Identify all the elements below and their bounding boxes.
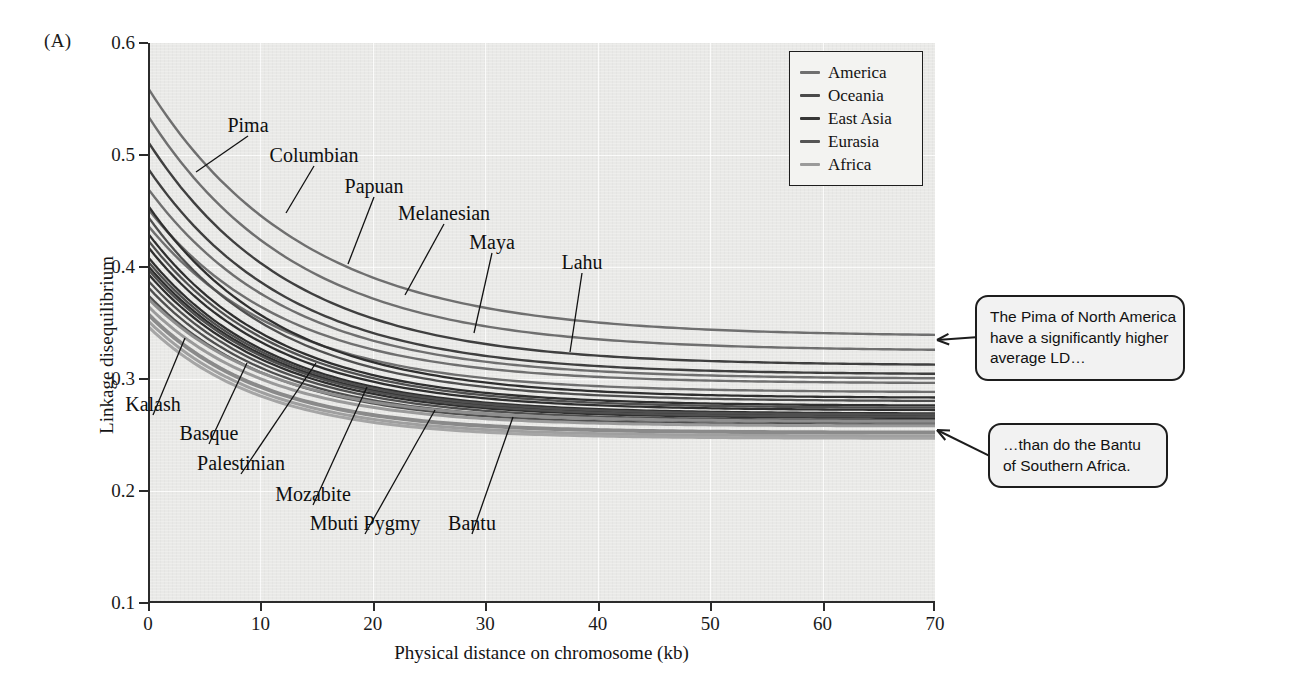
population-label-mbuti-pygmy: Mbuti Pygmy [310, 512, 421, 535]
y-axis-tick-label: 0.3 [111, 368, 135, 390]
x-axis-tick [598, 603, 600, 611]
legend-swatch-icon [800, 140, 820, 143]
y-axis-tick [139, 490, 148, 492]
curve-japanese [148, 247, 935, 410]
y-axis-tick-label: 0.1 [111, 592, 135, 614]
curve-melanesian [148, 168, 935, 373]
legend-swatch-icon [800, 71, 820, 74]
y-axis-tick [139, 266, 148, 268]
population-label-pima: Pima [227, 114, 268, 137]
y-axis-tick [139, 378, 148, 380]
x-axis-tick-label: 10 [251, 613, 270, 635]
x-axis-tick [260, 603, 262, 611]
x-axis-line [148, 601, 935, 603]
callout-tail [937, 430, 992, 457]
legend: AmericaOceaniaEast AsiaEurasiaAfrica [789, 51, 923, 186]
legend-swatch-icon [800, 163, 820, 166]
population-label-maya: Maya [469, 231, 515, 254]
y-axis-tick-label: 0.6 [111, 32, 135, 54]
population-label-papuan: Papuan [345, 175, 404, 198]
x-axis-tick [823, 603, 825, 611]
callout-line: average LD… [990, 348, 1170, 369]
legend-item-label: Oceania [828, 86, 884, 106]
curve-lahu [148, 205, 935, 397]
x-axis-tick-label: 20 [363, 613, 382, 635]
callout-tail [937, 337, 979, 340]
x-axis-tick [485, 603, 487, 611]
callout-line: The Pima of North America [990, 307, 1170, 328]
population-label-palestinian: Palestinian [197, 452, 285, 475]
figure-panel: (A) Linkage disequilibrium Physical dist… [0, 0, 1296, 690]
legend-item-label: Eurasia [828, 132, 879, 152]
population-label-basque: Basque [180, 422, 239, 445]
x-axis-tick-label: 70 [926, 613, 945, 635]
y-axis-tick-label: 0.4 [111, 256, 135, 278]
legend-swatch-icon [800, 94, 820, 97]
x-axis-tick-label: 0 [143, 613, 153, 635]
callout-bantu: …than do the Bantuof Southern Africa. [988, 423, 1168, 488]
x-axis-title: Physical distance on chromosome (kb) [148, 642, 935, 664]
x-axis-tick-label: 60 [813, 613, 832, 635]
legend-item-east-asia[interactable]: East Asia [800, 107, 912, 130]
callout-line: of Southern Africa. [1003, 456, 1153, 477]
panel-letter: (A) [44, 30, 71, 52]
x-axis-tick [710, 603, 712, 611]
population-label-lahu: Lahu [561, 251, 602, 274]
legend-item-label: Africa [828, 155, 871, 175]
x-axis-tick-label: 30 [476, 613, 495, 635]
y-axis-tick [139, 42, 148, 44]
y-axis-title: Linkage disequilibrium [96, 256, 118, 434]
legend-item-america[interactable]: America [800, 61, 912, 84]
legend-item-label: America [828, 63, 887, 83]
x-axis-tick [373, 603, 375, 611]
y-axis-tick-label: 0.2 [111, 480, 135, 502]
legend-item-oceania[interactable]: Oceania [800, 84, 912, 107]
population-label-bantu: Bantu [448, 512, 496, 535]
callout-pima: The Pima of North Americahave a signific… [975, 295, 1185, 381]
callout-line: …than do the Bantu [1003, 435, 1153, 456]
population-label-kalash: Kalash [125, 393, 181, 416]
callout-arrowhead-icon [937, 430, 950, 440]
callout-line: have a significantly higher [990, 328, 1170, 349]
population-label-melanesian: Melanesian [398, 202, 490, 225]
y-axis-tick [139, 154, 148, 156]
population-label-columbian: Columbian [270, 144, 359, 167]
y-axis-tick-label: 0.5 [111, 144, 135, 166]
x-axis-tick [148, 603, 150, 611]
y-axis-tick [139, 602, 148, 604]
legend-swatch-icon [800, 117, 820, 120]
callout-arrowhead-icon [937, 334, 949, 345]
legend-item-label: East Asia [828, 109, 892, 129]
legend-item-africa[interactable]: Africa [800, 153, 912, 176]
x-axis-tick-label: 40 [588, 613, 607, 635]
y-axis-line [148, 43, 150, 603]
population-label-mozabite: Mozabite [275, 483, 351, 506]
x-axis-tick-label: 50 [701, 613, 720, 635]
legend-item-eurasia[interactable]: Eurasia [800, 130, 912, 153]
x-axis-tick [933, 603, 935, 611]
